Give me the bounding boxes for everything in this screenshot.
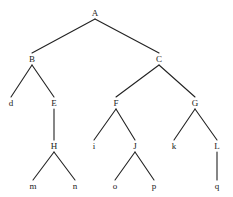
tree-edge xyxy=(54,152,75,180)
tree-edge xyxy=(116,109,135,140)
tree-node-k: k xyxy=(172,142,177,151)
tree-edge xyxy=(32,65,54,97)
tree-node-i: i xyxy=(93,142,96,151)
tree-edge xyxy=(116,65,159,97)
tree-node-n: n xyxy=(73,182,78,191)
tree-edge xyxy=(174,109,195,140)
tree-node-H: H xyxy=(51,142,58,151)
tree-edge xyxy=(95,19,159,53)
tree-node-L: L xyxy=(214,142,220,151)
tree-node-q: q xyxy=(215,182,220,191)
tree-node-A: A xyxy=(92,9,99,18)
tree-node-d: d xyxy=(9,99,14,108)
tree-node-B: B xyxy=(29,55,35,64)
tree-node-m: m xyxy=(29,182,36,191)
tree-node-G: G xyxy=(192,99,199,108)
tree-node-F: F xyxy=(113,99,118,108)
tree-edge xyxy=(135,152,154,180)
tree-edge xyxy=(159,65,195,97)
tree-edge xyxy=(115,152,135,180)
tree-edge xyxy=(11,65,32,97)
tree-node-J: J xyxy=(133,142,137,151)
tree-node-C: C xyxy=(156,55,162,64)
tree-edge xyxy=(94,109,116,140)
tree-node-o: o xyxy=(113,182,118,191)
tree-edge xyxy=(32,19,95,53)
tree-diagram: ABCdEFGHiJkLmnopq xyxy=(0,0,233,197)
tree-edge xyxy=(33,152,54,180)
tree-node-p: p xyxy=(152,182,157,191)
tree-edge xyxy=(195,109,217,140)
tree-node-E: E xyxy=(51,99,57,108)
